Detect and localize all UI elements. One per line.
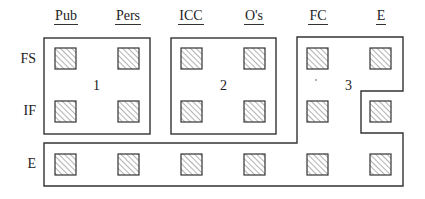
row-label-fs: FS [8, 51, 36, 67]
column-label-pers: Pers [108, 8, 148, 24]
cell-fs-icc [181, 48, 202, 69]
region-3-boundary [44, 37, 403, 186]
cell-fs-pub [55, 48, 76, 69]
cell-e-icc [181, 154, 202, 175]
cell-e-os [244, 154, 265, 175]
cell-e-e [370, 154, 391, 175]
cluster-diagram [0, 0, 425, 199]
column-label-e: E [361, 8, 401, 24]
cell-if-fc [307, 101, 328, 122]
cell-if-icc [181, 101, 202, 122]
region-number-1: 1 [93, 78, 100, 94]
cell-if-pub [55, 101, 76, 122]
cell-e-pers [118, 154, 139, 175]
column-label-icc: ICC [171, 8, 211, 24]
cell-if-e [370, 101, 391, 122]
column-label-os: O's [234, 8, 274, 24]
cell-fs-fc [307, 48, 328, 69]
cell-fs-pers [118, 48, 139, 69]
stray-dot [315, 79, 317, 81]
cell-if-os [244, 101, 265, 122]
cell-e-pub [55, 154, 76, 175]
row-label-if: IF [8, 103, 36, 119]
cell-fs-os [244, 48, 265, 69]
region-number-2: 2 [220, 78, 227, 94]
cell-e-fc [307, 154, 328, 175]
cell-fs-e [370, 48, 391, 69]
column-label-fc: FC [298, 8, 338, 24]
column-label-pub: Pub [46, 8, 86, 24]
cell-if-pers [118, 101, 139, 122]
row-label-e: E [8, 156, 36, 172]
cell-grid [55, 48, 391, 175]
region-number-3: 3 [345, 78, 352, 94]
